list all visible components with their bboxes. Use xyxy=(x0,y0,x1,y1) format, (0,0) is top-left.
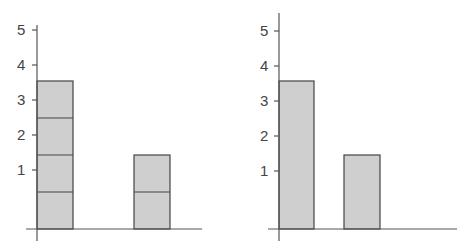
chart-canvas: 5 4 3 2 1 5 4 3 2 1 xyxy=(0,0,467,251)
left-tick-3: 3 xyxy=(17,91,25,108)
left-tick-4: 4 xyxy=(17,56,25,73)
right-tick-2: 2 xyxy=(260,127,268,144)
right-tick-4: 4 xyxy=(260,57,268,74)
right-chart: 5 4 3 2 1 xyxy=(260,13,457,241)
left-tick-5: 5 xyxy=(17,21,25,38)
right-tick-5: 5 xyxy=(260,22,268,39)
left-bar-a xyxy=(37,81,73,229)
left-chart: 5 4 3 2 1 xyxy=(17,21,202,241)
right-tick-3: 3 xyxy=(260,92,268,109)
left-tick-1: 1 xyxy=(17,161,25,178)
right-tick-1: 1 xyxy=(260,162,268,179)
right-bar-b xyxy=(344,155,380,229)
left-bar-b xyxy=(134,155,170,229)
left-tick-2: 2 xyxy=(17,126,25,143)
right-bar-a xyxy=(279,81,314,229)
